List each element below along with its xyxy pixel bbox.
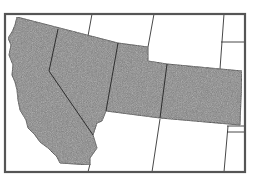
map [0, 0, 253, 177]
